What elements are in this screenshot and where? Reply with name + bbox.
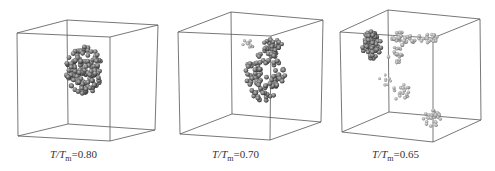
caption-value: =0.80 (72, 148, 97, 160)
atom (374, 47, 379, 52)
atom (389, 80, 392, 83)
atom (399, 53, 403, 57)
atom (89, 49, 94, 54)
caption-value: =0.70 (234, 148, 259, 160)
atom (370, 41, 375, 46)
atom (94, 59, 99, 64)
caption-value: =0.65 (394, 148, 419, 160)
atom (273, 68, 278, 73)
atom (249, 44, 252, 47)
atom (85, 53, 90, 58)
atom (95, 52, 100, 57)
atom (85, 59, 90, 64)
atom (366, 34, 371, 39)
atom (260, 91, 265, 96)
atom (425, 37, 429, 41)
atom (400, 43, 404, 47)
atom (439, 117, 443, 121)
atom (92, 83, 97, 88)
atom (73, 58, 78, 63)
atom (262, 40, 266, 44)
atom (360, 45, 365, 50)
atom (271, 93, 276, 98)
atom (67, 55, 72, 60)
atom (363, 40, 368, 45)
atom (434, 123, 438, 127)
atom (71, 78, 76, 83)
atom (432, 34, 436, 38)
atom (71, 51, 76, 56)
atom (384, 79, 387, 82)
atom (80, 51, 85, 56)
atom (429, 116, 433, 120)
atom (392, 50, 396, 54)
atom (271, 74, 276, 79)
atom (432, 40, 436, 44)
atom (395, 61, 399, 65)
atom (387, 55, 391, 59)
atom (95, 63, 100, 68)
atom (281, 68, 286, 73)
atom (253, 91, 258, 96)
atom (271, 40, 275, 44)
atom (256, 83, 261, 88)
atom (425, 122, 429, 126)
atom (437, 113, 441, 117)
atom (241, 43, 244, 46)
atom (253, 67, 258, 72)
atom (395, 31, 399, 35)
atom (422, 37, 426, 41)
atom (406, 86, 409, 89)
atom (393, 46, 397, 50)
atom (245, 72, 250, 77)
atom (378, 77, 381, 80)
atom (282, 73, 287, 78)
atom (431, 108, 435, 112)
atom (403, 89, 406, 92)
atom (246, 64, 251, 69)
atom (83, 64, 88, 69)
atom (394, 97, 397, 100)
caption-panel-1: T/Tm=0.80 (50, 148, 97, 163)
atom (422, 117, 426, 121)
atom (270, 44, 274, 48)
atom (69, 65, 74, 70)
atom (392, 37, 396, 41)
atom (386, 83, 389, 86)
atom (410, 39, 414, 43)
atom (418, 34, 422, 38)
atom (397, 36, 401, 40)
atom (379, 45, 384, 50)
atom (384, 84, 387, 87)
atom (255, 96, 260, 101)
atom (403, 96, 406, 99)
atom (243, 39, 246, 42)
atom (384, 74, 387, 77)
atom (263, 83, 268, 88)
simulation-figure: T/Tm=0.80 T/Tm=0.70 T/Tm=0.65 (0, 0, 495, 171)
atom (263, 61, 268, 66)
atom (429, 124, 433, 128)
atom (86, 80, 91, 85)
atom (250, 76, 255, 81)
atom (402, 39, 406, 43)
atom (69, 84, 74, 89)
atom (388, 77, 391, 80)
cube-panel-3 (340, 10, 481, 142)
atom (246, 42, 249, 45)
atom-cluster-panel-1 (64, 45, 103, 96)
atom (66, 75, 71, 80)
atom (434, 114, 438, 118)
atom (87, 72, 92, 77)
atom (268, 81, 273, 86)
atom-cluster-panel-2 (241, 37, 287, 102)
atom (398, 58, 402, 62)
atom (392, 86, 395, 89)
atom (82, 45, 87, 50)
atom (77, 70, 82, 75)
atom (271, 53, 276, 58)
atom (276, 46, 280, 50)
caption-panel-3: T/Tm=0.65 (372, 148, 419, 163)
atom (274, 83, 279, 88)
atom (90, 78, 95, 83)
